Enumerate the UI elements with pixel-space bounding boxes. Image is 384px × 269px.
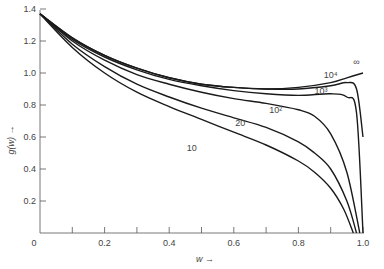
x-tick-label: 0.4 (163, 238, 176, 248)
x-tick-label: 0.6 (228, 238, 241, 248)
chart: 00.20.40.60.81.0 0.20.40.60.81.01.21.4 ∞… (0, 0, 384, 269)
y-ticks: 0.20.40.60.81.01.21.4 (23, 4, 46, 206)
x-axis-label: w → (196, 254, 214, 264)
x-ticks: 00.20.40.60.81.0 (31, 227, 369, 248)
y-tick-label: 0.8 (23, 100, 36, 110)
curve-label: 10² (269, 105, 282, 115)
curve-label: 10 (187, 143, 197, 153)
y-tick-label: 1.0 (23, 68, 36, 78)
y-tick-label: 0.6 (23, 132, 36, 142)
y-axis-label: g(w) → (6, 126, 16, 155)
curve-label: 10³ (315, 86, 328, 96)
x-tick-label: 0.8 (292, 238, 305, 248)
x-tick-label: 0 (31, 238, 36, 248)
y-tick-label: 1.4 (23, 4, 36, 14)
y-tick-label: 1.2 (23, 36, 36, 46)
curve-label: ∞ (353, 57, 359, 67)
curves (40, 14, 363, 233)
y-tick-label: 0.2 (23, 196, 36, 206)
curve-10⁴ (40, 14, 363, 137)
x-tick-label: 1.0 (357, 238, 370, 248)
y-tick-label: 0.4 (23, 164, 36, 174)
curve-label: 10⁴ (324, 70, 338, 80)
x-tick-label: 0.2 (98, 238, 111, 248)
curve-label: 20 (235, 118, 245, 128)
axes (40, 10, 364, 233)
